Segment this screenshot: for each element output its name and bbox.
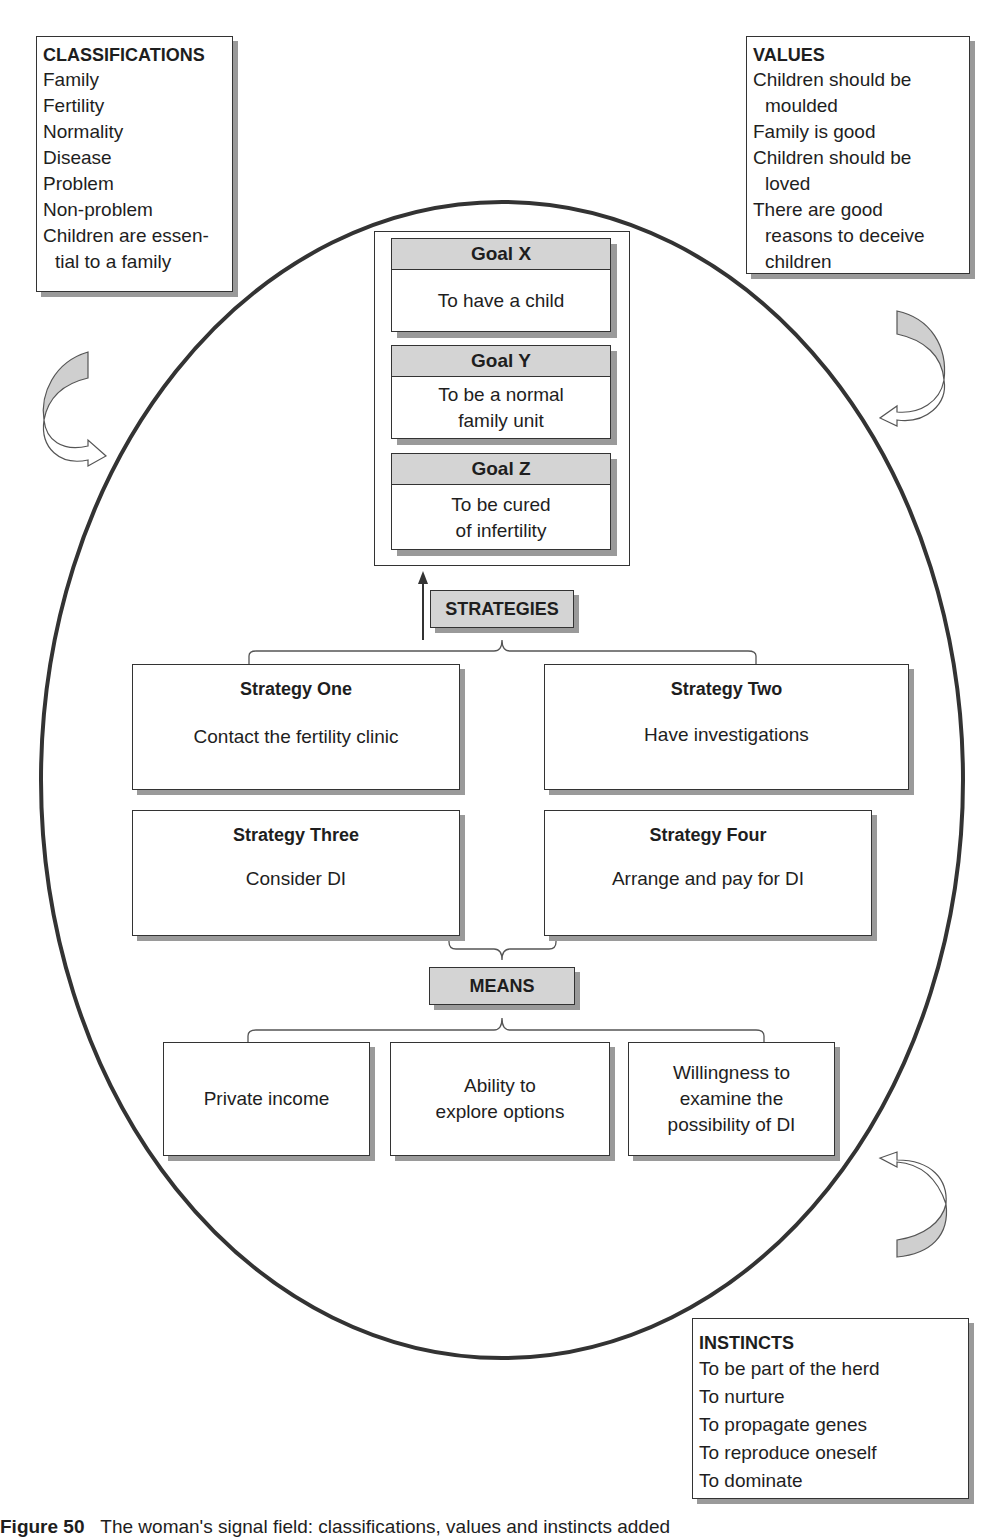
classification-item: Disease	[43, 145, 226, 171]
goal-z-box: Goal Z To be cured of infertility	[391, 453, 611, 550]
instincts-title: INSTINCTS	[699, 1331, 962, 1355]
instinct-item: To be part of the herd	[699, 1355, 962, 1383]
goal-z-title: Goal Z	[392, 454, 610, 485]
classification-item: Non-problem	[43, 197, 226, 223]
value-item-continuation: moulded	[753, 93, 963, 119]
strategy-one-box: Strategy One Contact the fertility clini…	[132, 664, 460, 790]
curved-arrow-right-bottom-icon	[880, 1152, 947, 1257]
strategy-three-text: Consider DI	[133, 868, 459, 890]
strategy-one-title: Strategy One	[133, 679, 459, 700]
value-item-continuation: children	[753, 249, 963, 275]
strategy-one-text: Contact the fertility clinic	[133, 726, 459, 748]
strategy-two-title: Strategy Two	[545, 679, 908, 700]
strategy-four-box: Strategy Four Arrange and pay for DI	[544, 810, 872, 936]
values-title: VALUES	[753, 43, 963, 67]
classifications-box: CLASSIFICATIONS Family Fertility Normali…	[36, 36, 233, 292]
value-item: Family is good	[753, 119, 963, 145]
up-arrow-icon	[418, 571, 428, 640]
means-willingness-box: Willingness to examine the possibility o…	[628, 1042, 835, 1156]
classification-item: Fertility	[43, 93, 226, 119]
figure-caption: Figure 50 The woman's signal field: clas…	[0, 1516, 1007, 1538]
figure-caption-text: The woman's signal field: classification…	[100, 1516, 670, 1537]
goal-x-title: Goal X	[392, 239, 610, 270]
goal-x-body: To have a child	[392, 270, 610, 332]
goal-z-text-line2: of infertility	[456, 518, 547, 544]
means-text-line1: Ability to	[464, 1073, 536, 1099]
instinct-item: To reproduce oneself	[699, 1439, 962, 1467]
instinct-item: To propagate genes	[699, 1411, 962, 1439]
means-text-line1: Willingness to	[673, 1060, 790, 1086]
goal-y-box: Goal Y To be a normal family unit	[391, 345, 611, 439]
means-text-line3: possibility of DI	[668, 1112, 796, 1138]
instinct-item: To nurture	[699, 1383, 962, 1411]
classification-item: Children are essen-	[43, 223, 226, 249]
goal-z-text-line1: To be cured	[451, 492, 550, 518]
means-text-line2: explore options	[436, 1099, 565, 1125]
curved-arrow-right-top-icon	[880, 311, 945, 426]
classifications-title: CLASSIFICATIONS	[43, 43, 226, 67]
goal-y-title: Goal Y	[392, 346, 610, 377]
classification-item: Normality	[43, 119, 226, 145]
goal-y-text-line2: family unit	[458, 408, 544, 434]
goal-x-text: To have a child	[438, 288, 565, 314]
value-item: Children should be	[753, 145, 963, 171]
means-brace	[248, 1018, 764, 1042]
values-box: VALUES Children should be moulded Family…	[746, 36, 970, 274]
strategy-four-text: Arrange and pay for DI	[545, 868, 871, 890]
means-text: Private income	[204, 1086, 330, 1112]
classification-item: Family	[43, 67, 226, 93]
value-item-continuation: reasons to deceive	[753, 223, 963, 249]
goal-y-text-line1: To be a normal	[438, 382, 564, 408]
strategy-four-title: Strategy Four	[545, 825, 871, 846]
goal-z-body: To be cured of infertility	[392, 485, 610, 550]
strategy-three-title: Strategy Three	[133, 825, 459, 846]
strategies-brace	[249, 640, 756, 664]
goal-y-body: To be a normal family unit	[392, 377, 610, 439]
means-ability-box: Ability to explore options	[390, 1042, 610, 1156]
means-label: MEANS	[429, 967, 575, 1005]
value-item: Children should be	[753, 67, 963, 93]
instincts-box: INSTINCTS To be part of the herd To nurt…	[692, 1318, 969, 1499]
strategy-three-box: Strategy Three Consider DI	[132, 810, 460, 936]
curved-arrow-left-icon	[43, 352, 106, 466]
classification-item-continuation: tial to a family	[43, 249, 226, 275]
instinct-item: To dominate	[699, 1467, 962, 1495]
figure-label: Figure 50	[0, 1516, 84, 1537]
value-item-continuation: loved	[753, 171, 963, 197]
means-private-income-box: Private income	[163, 1042, 370, 1156]
means-top-brace	[449, 936, 556, 960]
strategy-two-box: Strategy Two Have investigations	[544, 664, 909, 790]
classification-item: Problem	[43, 171, 226, 197]
means-text-line2: examine the	[680, 1086, 784, 1112]
strategy-two-text: Have investigations	[545, 724, 908, 746]
value-item: There are good	[753, 197, 963, 223]
goal-x-box: Goal X To have a child	[391, 238, 611, 332]
strategies-label: STRATEGIES	[430, 590, 574, 628]
